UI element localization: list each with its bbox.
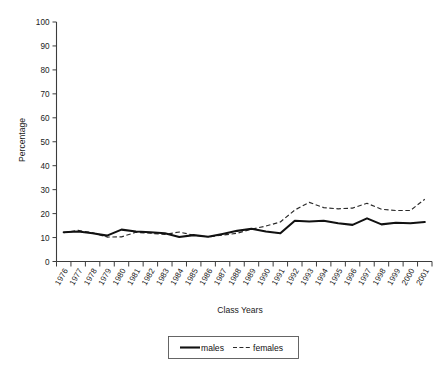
y-tick-label: 80 [40, 66, 50, 75]
y-tick-label: 0 [45, 258, 50, 267]
x-tick-label: 1995 [328, 267, 345, 287]
x-axis-title: Class Years [217, 305, 262, 315]
x-tick-label: 1990 [255, 267, 272, 287]
x-tick-label: 1999 [385, 267, 402, 287]
x-tick-label: 1978 [82, 267, 99, 287]
y-tick-label: 100 [36, 18, 50, 27]
x-tick-label: 1998 [371, 267, 388, 287]
x-tick-label: 2001 [414, 267, 431, 287]
y-tick-label: 90 [40, 42, 50, 51]
legend-label-males: males [201, 343, 224, 353]
line-chart-svg: Percentage 0102030405060708090100 197619… [0, 0, 445, 376]
x-tick-label: 1984 [169, 267, 186, 287]
x-tick-label: 1991 [270, 267, 287, 287]
x-tick-label: 1979 [97, 267, 114, 287]
series-line-males [64, 218, 425, 237]
y-tick-label: 70 [40, 90, 50, 99]
x-tick-label: 1985 [183, 267, 200, 287]
x-tick-label: 1982 [140, 267, 157, 287]
x-tick-label: 1977 [68, 267, 85, 287]
y-tick-label: 10 [40, 234, 50, 243]
legend-label-females: females [253, 343, 283, 353]
x-tick-label: 1976 [53, 267, 70, 287]
y-tick-label: 30 [40, 186, 50, 195]
chart-figure: Percentage 0102030405060708090100 197619… [0, 0, 445, 376]
x-tick-label: 2000 [400, 267, 417, 287]
x-tick-label: 1992 [284, 267, 301, 287]
x-tick-label: 1993 [299, 267, 316, 287]
x-tick-label: 1997 [357, 267, 374, 287]
y-tick-label: 20 [40, 210, 50, 219]
y-tick-label: 50 [40, 138, 50, 147]
y-tick-group: 0102030405060708090100 [36, 18, 57, 267]
x-tick-group: 1976197719781979198019811982198319841985… [53, 262, 432, 287]
x-tick-label: 1983 [154, 267, 171, 287]
x-tick-label: 1996 [342, 267, 359, 287]
x-tick-label: 1980 [111, 267, 128, 287]
y-tick-label: 40 [40, 162, 50, 171]
x-tick-label: 1981 [125, 267, 142, 287]
y-axis-title: Percentage [17, 118, 27, 162]
chart-legend: males females [169, 337, 299, 359]
x-tick-label: 1989 [241, 267, 258, 287]
x-tick-label: 1987 [212, 267, 229, 287]
y-tick-label: 60 [40, 114, 50, 123]
x-tick-label: 1994 [313, 267, 330, 287]
x-tick-label: 1988 [227, 267, 244, 287]
x-tick-label: 1986 [198, 267, 215, 287]
